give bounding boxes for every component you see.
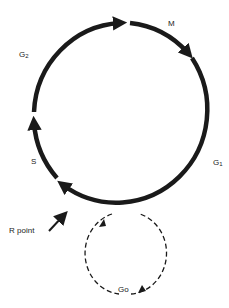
- g1-arc: [63, 58, 207, 203]
- label-s: S: [31, 158, 36, 166]
- r-point-arrow: [49, 216, 63, 231]
- g0-loop-right: [131, 214, 167, 294]
- label-g2: G2: [19, 51, 29, 59]
- g0-arrowhead-up: [99, 219, 106, 227]
- cell-cycle-diagram: M G2 S G1 R point Go: [0, 0, 229, 308]
- g0-arrowhead-down: [138, 285, 146, 293]
- s-arc: [34, 123, 57, 178]
- m-arc: [130, 23, 188, 53]
- label-r-point: R point: [9, 227, 34, 235]
- g2-arc: [34, 23, 120, 112]
- label-g0: Go: [118, 286, 129, 294]
- cycle-graphics: [0, 0, 229, 308]
- label-g1: G1: [213, 159, 223, 167]
- label-m: M: [168, 20, 175, 28]
